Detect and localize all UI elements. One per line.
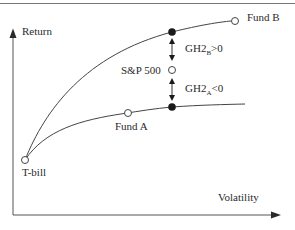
gh2a-label: GH2A<0 [185,82,224,97]
x-axis [13,212,281,219]
gh2b-double-arrow-icon [169,38,175,61]
x-axis-arrow-icon [271,212,281,219]
x-axis-label: Volatility [218,191,259,203]
fund-b-label: Fund B [247,11,280,23]
tbill-label: T-bill [22,166,46,178]
fund-b-point [232,18,239,25]
fund-a-point [125,110,132,117]
fund-a-label: Fund A [115,120,148,132]
y-axis [10,29,17,216]
lower-frontier-dot [168,103,176,111]
gh2a-double-arrow-icon [169,78,175,101]
efficient-frontier-diagram: Return Volatility T-bill Fund A Fund B G… [0,0,295,230]
sp500-label: S&P 500 [121,64,161,76]
lower-frontier-curve [25,104,245,160]
y-axis-label: Return [22,25,52,37]
sp500-point [169,67,176,74]
gh2b-label: GH2B>0 [185,42,223,57]
y-axis-arrow-icon [10,29,17,39]
upper-frontier-dot [168,28,176,36]
tbill-point [22,157,29,164]
